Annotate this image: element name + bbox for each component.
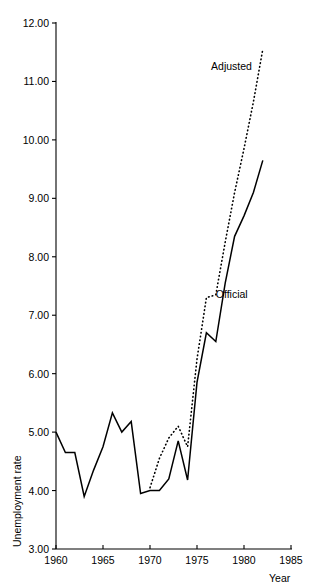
y-axis-title: Unemployment rate [12, 455, 23, 547]
y-tick-label: 11.00 [24, 76, 50, 87]
x-tick-label: 1985 [271, 555, 311, 566]
x-tick-label: 1980 [224, 555, 264, 566]
series-line-adjusted [150, 49, 263, 487]
x-axis-ticks [56, 545, 291, 549]
y-tick-label: 10.00 [23, 135, 49, 146]
y-tick-label: 9.00 [29, 193, 49, 204]
series-label-adjusted: Adjusted [211, 61, 252, 72]
y-tick-label: 4.00 [29, 486, 49, 497]
axis-lines [56, 22, 292, 549]
y-tick-label: 6.00 [29, 369, 49, 380]
x-tick-label: 1965 [83, 555, 123, 566]
series-line-official [56, 160, 263, 496]
x-axis-title: Year [269, 573, 290, 584]
data-series-paths [56, 49, 263, 496]
y-axis-ticks [52, 23, 56, 549]
unemployment-rate-chart: 3.004.005.006.007.008.009.0010.0011.0012… [0, 0, 315, 587]
y-tick-label: 5.00 [29, 427, 49, 438]
y-tick-label: 7.00 [29, 310, 49, 321]
y-tick-label: 8.00 [29, 252, 49, 263]
plot-area [0, 0, 315, 587]
x-tick-label: 1960 [36, 555, 76, 566]
y-tick-label: 12.00 [23, 18, 49, 29]
x-tick-label: 1975 [177, 555, 217, 566]
x-tick-label: 1970 [130, 555, 170, 566]
y-tick-label: 3.00 [29, 544, 49, 555]
series-label-official: Official [216, 289, 248, 300]
